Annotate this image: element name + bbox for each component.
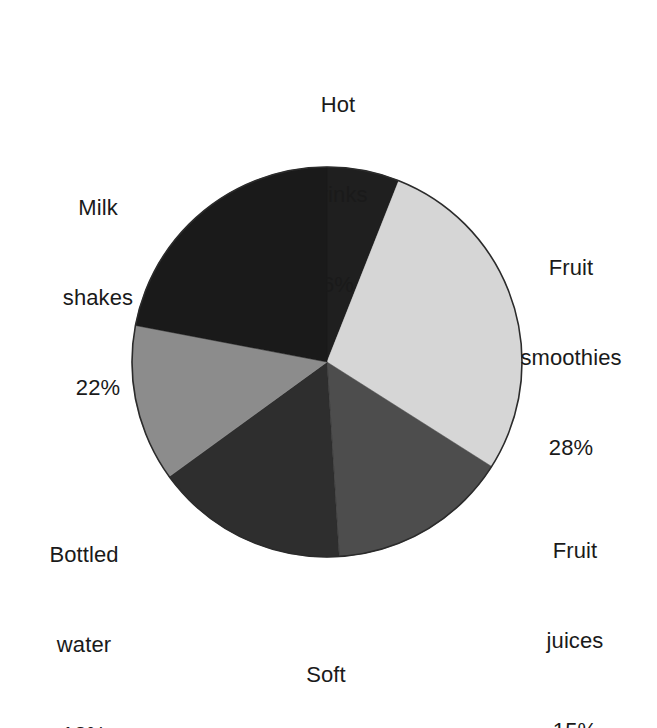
slice-value: 13% xyxy=(8,720,160,728)
slice-label-soft-drinks: Soft drinks 16% xyxy=(250,600,402,728)
slice-value: 28% xyxy=(495,433,647,463)
slice-label-line1: Bottled xyxy=(8,540,160,570)
slice-value: 6% xyxy=(268,270,408,300)
slice-label-line2: smoothies xyxy=(495,343,647,373)
slice-label-line1: Fruit xyxy=(495,253,647,283)
slice-label-line2: juices xyxy=(505,626,645,656)
slice-label-line2: water xyxy=(8,630,160,660)
slice-label-line1: Milk xyxy=(28,193,168,223)
slice-label-line1: Fruit xyxy=(505,536,645,566)
slice-label-line1: Hot xyxy=(268,90,408,120)
slice-label-fruit-smoothies: Fruit smoothies 28% xyxy=(495,193,647,523)
slice-label-bottled-water: Bottled water 13% xyxy=(8,480,160,728)
slice-value: 22% xyxy=(28,373,168,403)
slice-label-hot-drinks: Hot drinks 6% xyxy=(268,30,408,360)
slice-label-fruit-juices: Fruit juices 15% xyxy=(505,476,645,728)
slice-value: 15% xyxy=(505,716,645,728)
pie-chart-figure: Hot drinks 6% Fruit smoothies 28% Fruit … xyxy=(0,0,657,728)
slice-label-line2: shakes xyxy=(28,283,168,313)
slice-label-milk-shakes: Milk shakes 22% xyxy=(28,133,168,463)
slice-label-line1: Soft xyxy=(250,660,402,690)
slice-label-line2: drinks xyxy=(268,180,408,210)
